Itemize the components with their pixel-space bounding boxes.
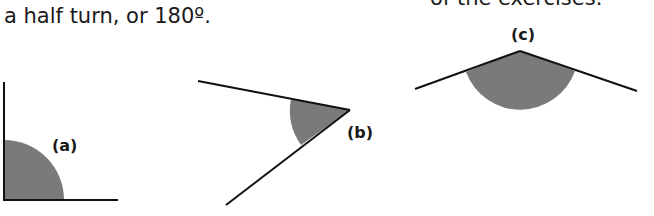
label-c: (c): [511, 25, 535, 44]
ray-b-lower: [226, 110, 350, 205]
figure-c: (c): [415, 25, 637, 110]
label-b: (b): [347, 123, 373, 142]
shaded-sector-b: [290, 99, 350, 145]
shaded-sector-c: [466, 51, 575, 110]
label-a: (a): [52, 136, 77, 155]
figure-b: (b): [198, 81, 373, 205]
figure-a: (a): [3, 82, 118, 201]
ray-b-upper: [198, 81, 350, 110]
angle-diagrams: (a) (b) (c): [0, 0, 654, 216]
